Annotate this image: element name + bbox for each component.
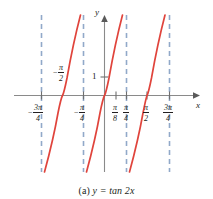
x-axis-arrow	[193, 92, 200, 99]
caption-equation: y = tan 2x	[93, 185, 135, 196]
tangent-graph-figure: y x 1 −π2 −3π4 −π4 π8 π4 π2 3π4 (a) y = …	[0, 0, 213, 199]
x-tick-label-neg-pi-4: −π4	[74, 104, 85, 123]
minus-sign: −	[53, 69, 58, 77]
tangent-branch-1	[45, 15, 81, 172]
caption-prefix: (a)	[79, 185, 90, 196]
fraction: 3π4	[163, 104, 173, 123]
x-tick-label-pi-2: π2	[143, 104, 149, 123]
y-axis-label: y	[95, 8, 99, 17]
x-tick-label-neg-3pi-4: −3π4	[28, 104, 43, 123]
fraction: 3π4	[33, 104, 43, 123]
x-tick-label-3pi-4: 3π4	[163, 104, 173, 123]
minus-sign: −	[74, 109, 79, 117]
minus-sign: −	[28, 109, 33, 117]
x-tick-label-pi-8: π8	[112, 104, 118, 123]
fraction: π4	[79, 104, 85, 123]
fraction: π2	[143, 104, 149, 123]
y-axis-arrow	[101, 15, 108, 22]
tangent-curve	[27, 15, 166, 172]
figure-caption: (a) y = tan 2x	[0, 185, 213, 196]
label-neg-pi-over-2: −π2	[53, 64, 64, 83]
x-tick-label-pi-4: π4	[123, 104, 129, 123]
fraction-pi-2: π2	[58, 64, 64, 83]
y-tick-label-1: 1	[92, 72, 97, 81]
fraction: π8	[112, 104, 118, 123]
graph-canvas	[0, 0, 213, 199]
fraction: π4	[123, 104, 129, 123]
x-axis-label: x	[196, 101, 200, 110]
tangent-branch-3	[130, 15, 166, 172]
